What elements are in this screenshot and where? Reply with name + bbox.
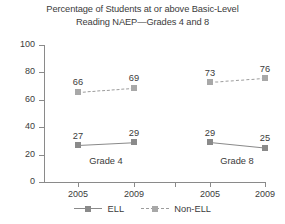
data-point-non-ell-grade4-2009 xyxy=(131,85,137,91)
chart-title-line-1: Percentage of Students at or above Basic… xyxy=(0,3,285,16)
data-label-non-ell-grade4-2005: 66 xyxy=(63,77,93,87)
data-label-ell-grade4-2009: 29 xyxy=(119,128,149,138)
group-label-grade-4: Grade 4 xyxy=(71,156,141,166)
legend-label-ell: ELL xyxy=(108,204,125,214)
x-axis-label-grade8-2009: 2009 xyxy=(245,189,285,199)
series-line-non-ell-grade8 xyxy=(210,78,265,83)
data-point-ell-grade4-2009 xyxy=(131,139,137,145)
data-label-ell-grade8-2005: 29 xyxy=(195,128,225,138)
x-tick-grade8-divider xyxy=(175,182,176,187)
data-point-ell-grade8-2009 xyxy=(262,145,268,151)
chart-legend: ELL Non-ELL xyxy=(0,203,285,214)
data-label-ell-grade4-2005: 27 xyxy=(63,131,93,141)
y-tick-40 xyxy=(39,127,44,128)
series-line-ell-grade8 xyxy=(210,142,265,148)
y-tick-60 xyxy=(39,100,44,101)
y-tick-0 xyxy=(39,182,44,183)
x-tick-grade8-2005 xyxy=(210,182,211,187)
data-point-ell-grade8-2005 xyxy=(207,139,213,145)
legend-swatch-dashed-line-icon xyxy=(141,205,169,213)
y-axis-label-100: 100 xyxy=(0,39,35,49)
x-axis-label-grade4-2005: 2005 xyxy=(58,189,98,199)
y-axis-label-40: 40 xyxy=(0,121,35,131)
legend-label-non-ell: Non-ELL xyxy=(174,204,211,214)
data-point-ell-grade4-2005 xyxy=(75,142,81,148)
data-point-non-ell-grade4-2005 xyxy=(75,89,81,95)
data-label-non-ell-grade8-2009: 76 xyxy=(250,64,280,74)
chart-title: Percentage of Students at or above Basic… xyxy=(0,3,285,28)
y-axis-label-20: 20 xyxy=(0,149,35,159)
y-axis-line xyxy=(44,45,45,182)
data-point-non-ell-grade8-2005 xyxy=(207,79,213,85)
legend-swatch-solid-line-icon xyxy=(74,205,102,213)
x-tick-grade4-2005 xyxy=(78,182,79,187)
y-tick-20 xyxy=(39,155,44,156)
y-tick-80 xyxy=(39,72,44,73)
data-label-non-ell-grade8-2005: 73 xyxy=(195,68,225,78)
x-tick-grade4-2009 xyxy=(134,182,135,187)
y-tick-100 xyxy=(39,45,44,46)
y-axis-label-60: 60 xyxy=(0,94,35,104)
naep-reading-line-chart: Percentage of Students at or above Basic… xyxy=(0,0,285,224)
x-axis-label-grade8-2005: 2005 xyxy=(190,189,230,199)
data-label-ell-grade8-2009: 25 xyxy=(250,133,280,143)
legend-item-non-ell: Non-ELL xyxy=(141,203,211,214)
y-axis-label-80: 80 xyxy=(0,66,35,76)
legend-item-ell: ELL xyxy=(74,203,124,214)
data-label-non-ell-grade4-2009: 69 xyxy=(119,73,149,83)
data-point-non-ell-grade8-2009 xyxy=(262,75,268,81)
series-line-ell-grade4 xyxy=(78,142,134,146)
x-axis-label-grade4-2009: 2009 xyxy=(114,189,154,199)
chart-title-line-2: Reading NAEP—Grades 4 and 8 xyxy=(0,16,285,29)
group-label-grade-8: Grade 8 xyxy=(202,156,272,166)
x-tick-grade8-2009 xyxy=(265,182,266,187)
series-line-non-ell-grade4 xyxy=(78,87,134,92)
y-axis-label-0: 0 xyxy=(0,176,35,186)
